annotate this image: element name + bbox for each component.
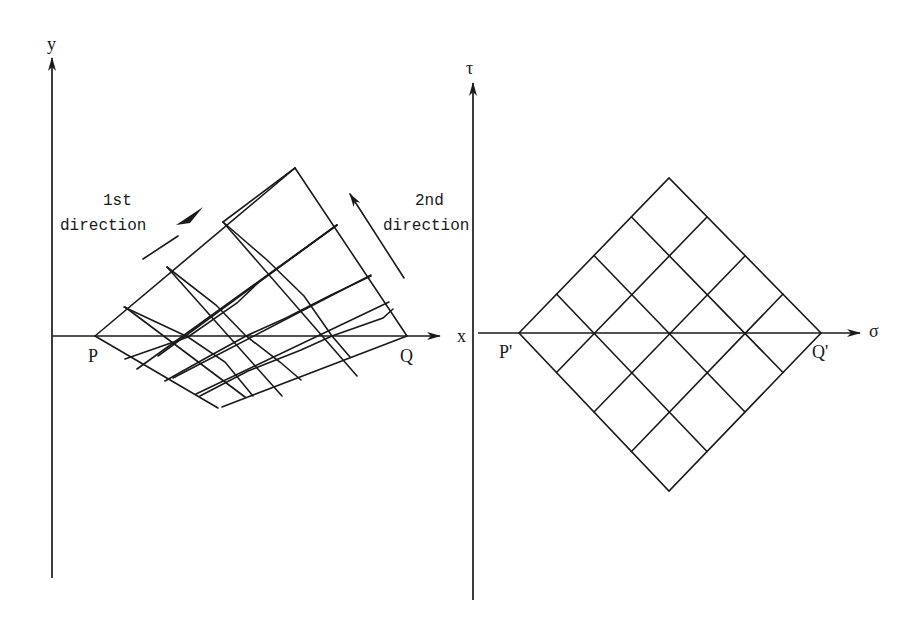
characteristic-mapping-diagram: y x bbox=[0, 0, 924, 637]
left-panel: y x bbox=[47, 34, 469, 578]
first-direction-label-2: direction bbox=[60, 217, 146, 235]
point-p-prime-label: P' bbox=[499, 342, 512, 362]
x-axis-label: x bbox=[457, 326, 466, 346]
first-direction-arrow-shaft bbox=[143, 236, 178, 259]
tau-axis-label: τ bbox=[466, 58, 473, 78]
sigma-axis-label: σ bbox=[869, 321, 879, 341]
second-direction-label-1: 2nd bbox=[415, 192, 444, 210]
second-direction-label-2: direction bbox=[383, 217, 469, 235]
first-direction-arrow-head bbox=[176, 207, 203, 225]
curvilinear-grid bbox=[95, 168, 407, 408]
point-q-label: Q bbox=[400, 346, 413, 366]
y-axis-label: y bbox=[47, 34, 56, 54]
second-direction-arrow bbox=[350, 194, 404, 278]
point-p-label: P bbox=[88, 346, 98, 366]
first-direction-label-1: 1st bbox=[103, 192, 132, 210]
diamond-grid bbox=[519, 178, 821, 491]
right-panel: τ σ P' Q' bbox=[466, 58, 879, 600]
point-q-prime-label: Q' bbox=[812, 342, 828, 362]
